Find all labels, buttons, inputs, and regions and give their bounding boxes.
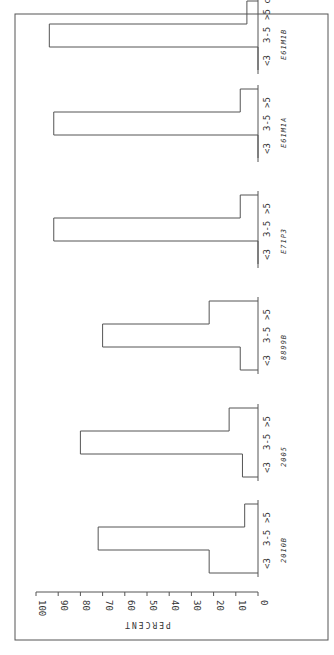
group-label: E61M1B [280, 29, 288, 60]
bar-category-label: <3 [262, 462, 272, 473]
group-label: 2005 [280, 446, 288, 467]
bar-8899b-2 [209, 301, 258, 324]
group-label: 2010B [280, 537, 288, 563]
bar-2005-2 [229, 408, 258, 431]
group-label: E71P3 [280, 228, 288, 254]
category-labels: <33-5>52010B<33-5>52005<33-5>58899B<33-5… [262, 0, 288, 569]
bars [49, 0, 258, 577]
bar-category-label: >5 cm [262, 0, 272, 20]
bar-e71p3-1 [54, 218, 258, 241]
bar-category-label: 3-5 [262, 27, 272, 43]
tick-label: 50 [148, 600, 158, 611]
tick-label: 60 [126, 600, 136, 611]
bar-e71p3-2 [240, 195, 258, 218]
bar-category-label: 3-5 [262, 115, 272, 131]
tick-label: 80 [81, 600, 91, 611]
bar-category-label: 3-5 [262, 327, 272, 343]
bar-e61m1b-1 [49, 24, 258, 47]
bar-category-label: 3-5 [262, 434, 272, 450]
tick-label: 20 [215, 600, 225, 611]
bar-category-label: <3 [262, 249, 272, 260]
bar-2005-1 [80, 431, 258, 454]
tick-label: 10 [237, 600, 247, 611]
bar-e61m1a-2 [240, 89, 258, 112]
bar-8899b-0 [240, 347, 258, 370]
bar-category-label: >5 [262, 203, 272, 214]
bar-8899b-1 [103, 324, 258, 347]
bar-category-label: <3 [262, 558, 272, 569]
bar-e61m1b-2 [247, 1, 258, 24]
bar-2010b-2 [245, 504, 258, 527]
tick-label: 0 [259, 600, 269, 605]
tick-label: 40 [170, 600, 180, 611]
bar-2010b-1 [98, 527, 258, 550]
group-label: E61M1A [280, 117, 288, 148]
bar-2005-0 [242, 454, 258, 477]
bar-category-label: <3 [262, 355, 272, 366]
bar-category-label: >5 [262, 416, 272, 427]
bar-category-label: 3-5 [262, 221, 272, 237]
chart: 0102030405060708090100PERCENT <33-5>5201… [0, 0, 334, 655]
bar-category-label: <3 [262, 143, 272, 154]
bar-category-label: 3-5 [262, 530, 272, 546]
percent-axis: 0102030405060708090100PERCENT [36, 592, 269, 629]
tick-label: 70 [104, 600, 114, 611]
axis-title: PERCENT [123, 620, 171, 629]
bar-2010b-0 [209, 550, 258, 573]
group-label: 8899B [280, 334, 288, 360]
tick-label: 90 [59, 600, 69, 611]
bar-category-label: >5 [262, 309, 272, 320]
tick-label: 100 [37, 600, 47, 616]
bar-category-label: <3 [262, 55, 272, 66]
bar-e61m1a-1 [54, 112, 258, 135]
tick-label: 30 [192, 600, 202, 611]
bar-category-label: >5 [262, 97, 272, 108]
bar-category-label: >5 [262, 512, 272, 523]
